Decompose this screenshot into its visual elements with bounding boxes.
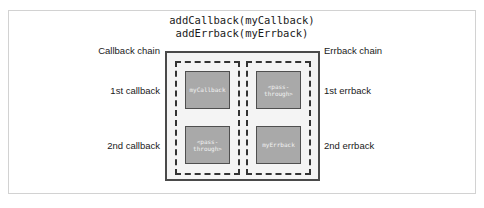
handler-box-callback-pass-through: <pass- through> [185, 126, 230, 164]
label-callback-chain: Callback chain [47, 45, 160, 56]
label-first-callback: 1st callback [47, 85, 160, 96]
callback-chain-column: myCallback <pass- through> [175, 61, 240, 175]
handler-label-line-2: through> [264, 90, 293, 98]
handler-label-line-1: <pass- [197, 138, 219, 146]
label-second-errback: 2nd errback [324, 140, 444, 151]
handler-label-line-1: myErrback [262, 141, 295, 149]
label-first-errback: 1st errback [324, 85, 444, 96]
handler-box-my-errback: myErrback [256, 126, 301, 164]
errback-chain-column: <pass- through> myErrback [246, 61, 311, 175]
label-second-callback: 2nd callback [47, 140, 160, 151]
title-line-add-errback: addErrback(myErrback) [0, 27, 484, 40]
title-line-add-callback: addCallback(myCallback) [0, 14, 484, 27]
label-errback-chain: Errback chain [324, 45, 444, 56]
handler-label-line-1: <pass- [268, 83, 290, 91]
deferred-container: myCallback <pass- through> <pass- throug… [165, 51, 320, 181]
handler-label-line-1: myCallback [189, 86, 225, 94]
diagram-title: addCallback(myCallback) addErrback(myErr… [0, 14, 484, 40]
handler-box-errback-pass-through: <pass- through> [256, 71, 301, 109]
handler-box-my-callback: myCallback [185, 71, 230, 109]
handler-label-line-2: through> [193, 145, 222, 153]
